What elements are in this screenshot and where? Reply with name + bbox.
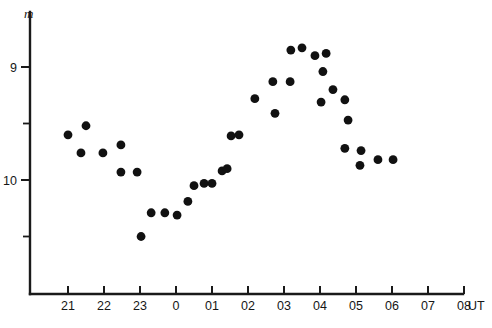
light-curve-plot: 91021222300102030405060708 m UT <box>0 0 492 328</box>
data-point <box>389 155 398 164</box>
axis-ticks <box>21 67 464 294</box>
data-point <box>208 179 217 188</box>
data-point <box>183 197 192 206</box>
data-point <box>99 148 108 157</box>
data-point <box>235 130 244 139</box>
x-tick-label: 23 <box>133 299 147 313</box>
data-point <box>147 208 156 217</box>
x-tick-label: 21 <box>61 299 75 313</box>
x-tick-label: 07 <box>421 299 435 313</box>
data-point <box>268 77 277 86</box>
y-axis-title: m <box>24 6 33 21</box>
y-tick-label: 9 <box>10 61 17 75</box>
data-point <box>329 85 338 94</box>
data-points <box>64 43 398 241</box>
data-point <box>250 94 259 103</box>
data-point <box>64 130 73 139</box>
data-point <box>317 98 326 107</box>
data-point <box>271 109 280 118</box>
x-tick-label: 22 <box>97 299 111 313</box>
x-tick-label: 02 <box>241 299 255 313</box>
data-point <box>374 155 383 164</box>
x-tick-label: 01 <box>205 299 219 313</box>
data-point <box>133 168 142 177</box>
data-point <box>117 168 126 177</box>
data-point <box>160 208 169 217</box>
data-point <box>298 43 307 52</box>
data-point <box>318 67 327 76</box>
x-tick-label: 04 <box>313 299 327 313</box>
x-tick-label: 03 <box>277 299 291 313</box>
data-point <box>340 144 349 153</box>
data-point <box>322 49 331 58</box>
data-point <box>200 179 209 188</box>
data-point <box>137 232 146 241</box>
x-tick-label: 0 <box>173 299 180 313</box>
data-point <box>344 116 353 125</box>
data-point <box>82 121 91 130</box>
data-point <box>357 146 366 155</box>
data-point <box>356 161 365 170</box>
x-tick-label: 05 <box>349 299 363 313</box>
chart-canvas: 91021222300102030405060708 m UT <box>0 0 492 328</box>
x-axis-unit-label: UT <box>468 299 485 313</box>
data-point <box>340 95 349 104</box>
data-point <box>227 132 236 141</box>
y-tick-label: 10 <box>3 174 17 188</box>
data-point <box>77 148 86 157</box>
axis-tick-labels: 91021222300102030405060708 <box>3 61 471 314</box>
data-point <box>117 141 126 150</box>
data-point <box>173 211 182 220</box>
x-tick-label: 06 <box>385 299 399 313</box>
data-point <box>286 77 295 86</box>
data-point <box>286 46 295 55</box>
data-point <box>223 164 232 173</box>
data-point <box>190 181 199 190</box>
data-point <box>311 51 320 60</box>
axes <box>30 12 463 294</box>
